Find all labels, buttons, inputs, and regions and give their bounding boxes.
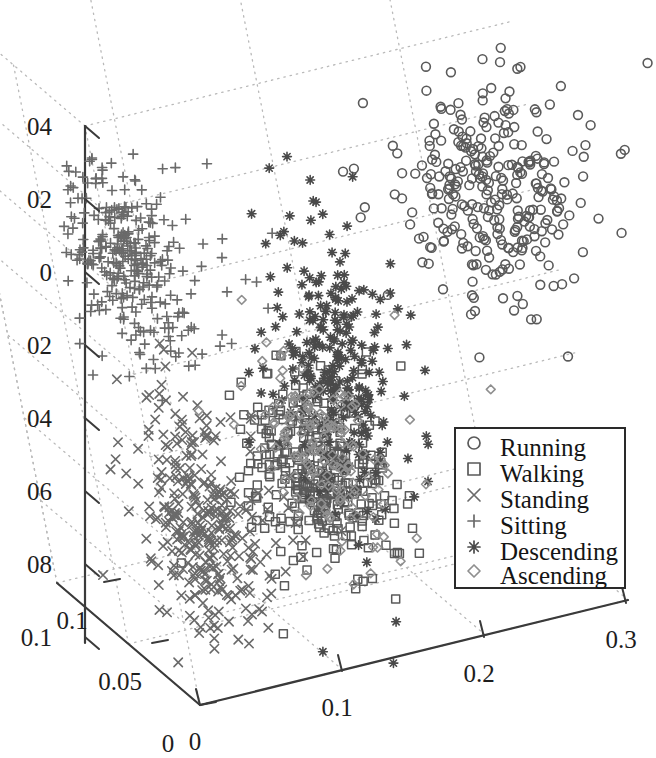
data-point [257,389,266,398]
data-point [145,502,153,510]
data-point [80,208,89,217]
data-point [272,539,280,547]
data-point [541,238,550,247]
y-tick-label: 0.1 [56,607,87,634]
data-point [532,315,541,324]
data-point [316,301,325,310]
wall-grid-horiz-x [85,21,513,126]
data-point [398,194,407,203]
data-point [207,471,215,479]
x-axis-line [200,600,628,705]
data-point [86,307,95,316]
y-tick [152,640,168,643]
data-point [392,595,400,603]
data-point [475,353,484,362]
data-point [117,329,126,338]
data-point [325,230,334,239]
data-point [617,229,626,238]
data-point [222,287,231,296]
data-point [327,406,336,415]
data-point [359,577,367,585]
data-point [560,178,569,187]
data-point [309,197,318,206]
data-point [356,213,365,222]
z-tick-label: 0 [40,259,53,286]
data-point [378,421,387,430]
data-point [288,365,297,374]
legend-item-label: Descending [500,538,619,565]
data-point [381,492,389,500]
data-point [518,300,527,309]
z-tick [85,418,99,430]
data-point [67,250,76,259]
data-point [75,314,84,323]
data-point [362,558,371,567]
data-point [131,176,140,185]
data-point [565,211,574,220]
data-point [390,519,398,527]
data-point [120,185,129,194]
data-point [542,135,551,144]
data-point [486,385,495,394]
data-point [386,259,395,268]
data-point [75,339,84,348]
data-point [198,349,207,358]
data-point [331,308,340,317]
data-point [412,534,421,543]
data-point [261,239,270,248]
data-point [188,349,196,357]
data-point [227,595,235,603]
data-point [165,503,173,511]
data-point [263,593,271,601]
data-point [343,222,352,231]
data-point [404,454,413,463]
z-tick-label: 08 [27,551,52,578]
x-tick-label: 0.2 [463,660,494,687]
data-point [103,287,112,296]
data-point [111,455,119,463]
data-point [265,164,274,173]
data-point [468,277,477,286]
data-point [218,234,227,243]
data-point [210,644,218,652]
data-point [227,477,235,485]
data-point [439,285,448,294]
data-point [107,159,116,168]
data-point [361,407,370,416]
data-point [544,261,553,270]
data-point [227,339,236,348]
data-point [158,396,167,405]
data-point [501,94,510,103]
data-point [331,295,340,304]
data-point [339,313,348,322]
data-point [265,572,273,580]
data-point [118,303,127,312]
data-point [128,293,137,302]
data-point [307,354,316,363]
z-tick-label: 02 [27,186,52,213]
data-point [357,500,365,508]
data-point [280,382,289,391]
data-point [454,99,463,108]
data-point [155,606,163,614]
z-tick-label: 04 [27,113,53,140]
data-point [261,524,269,532]
data-point [162,312,171,321]
data-point [532,108,541,117]
data-point [174,658,182,666]
data-point [377,387,386,396]
data-point [234,635,242,643]
data-point [447,68,456,77]
data-point [226,487,234,495]
data-point [362,348,370,356]
data-point [549,282,558,291]
data-point [133,202,142,211]
legend[interactable]: RunningWalkingStandingSittingDescendingA… [455,428,625,589]
data-point [376,295,385,304]
data-point [336,327,345,336]
data-point [298,238,307,247]
data-point [499,294,508,303]
data-point [297,358,306,367]
data-point [281,567,289,575]
data-point [383,438,392,447]
